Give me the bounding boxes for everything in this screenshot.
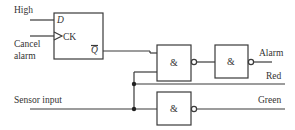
label-cancel-line2: alarm [14,51,36,61]
nand1-inverter-bubble-icon [191,59,196,64]
nand2-symbol: & [227,56,235,67]
label-cancel-line1: Cancel [14,39,41,49]
label-green: Green [258,95,281,105]
circuit-diagram: High Cancel alarm Sensor input D CK Q & … [0,0,295,130]
nand3-inverter-bubble-icon [191,106,196,111]
label-sensor-input: Sensor input [14,95,62,105]
nand1-symbol: & [170,57,178,68]
nand3-symbol: & [170,103,178,114]
pin-qbar-label: Q [91,45,98,55]
junction-dot-red [132,82,136,86]
nand2-inverter-bubble-icon [248,59,253,64]
label-red: Red [266,71,282,81]
label-alarm: Alarm [259,48,284,58]
junction-dot-sensor [132,107,136,111]
pin-d-label: D [56,15,64,25]
pin-ck-label: CK [63,32,76,42]
label-high: High [14,5,33,15]
